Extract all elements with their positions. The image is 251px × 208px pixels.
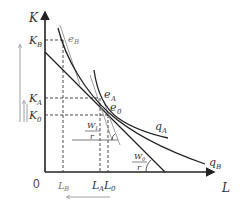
svg-text:A: A: [36, 99, 42, 107]
svg-text:B: B: [36, 41, 42, 49]
slope-label-w0: W 0 r: [132, 152, 147, 172]
svg-text:0: 0: [117, 108, 122, 116]
curve-label-qb: q B: [209, 156, 221, 171]
svg-text:0: 0: [142, 156, 146, 162]
x-axis-label: L: [221, 181, 230, 195]
svg-text:e: e: [110, 101, 117, 114]
svg-text:q: q: [155, 120, 162, 133]
isoquant-diagram: K L 0 K B K A K 0 L B L A L 0 e B e A e …: [0, 0, 251, 208]
y-tick-k0: K 0: [28, 109, 42, 124]
svg-text:0: 0: [37, 116, 42, 124]
x-tick-la: L A: [91, 179, 104, 193]
slope-label-w1: W 1 r: [85, 121, 100, 141]
angle-arc-w1: [112, 134, 115, 140]
svg-text:0: 0: [111, 185, 116, 193]
origin-label: 0: [33, 177, 40, 191]
x-tick-lb: L B: [57, 180, 69, 193]
x-tick-l0: L 0: [103, 179, 116, 193]
y-tick-kb: K B: [28, 34, 42, 49]
svg-text:q: q: [209, 156, 216, 169]
svg-text:1: 1: [95, 125, 98, 131]
isoquant-qb: [58, 28, 205, 164]
curve-label-qa: q A: [155, 120, 167, 135]
svg-text:B: B: [215, 163, 221, 171]
svg-text:B: B: [63, 185, 69, 193]
y-axis-label: K: [28, 11, 39, 25]
svg-text:A: A: [161, 127, 167, 135]
svg-text:e: e: [104, 88, 111, 101]
y-tick-ka: K A: [28, 92, 42, 107]
svg-text:B: B: [73, 38, 79, 46]
point-eb: e B: [68, 33, 79, 46]
svg-text:r: r: [137, 163, 142, 172]
point-e0: e 0: [110, 101, 122, 116]
tangent-line-ea: [90, 75, 112, 140]
